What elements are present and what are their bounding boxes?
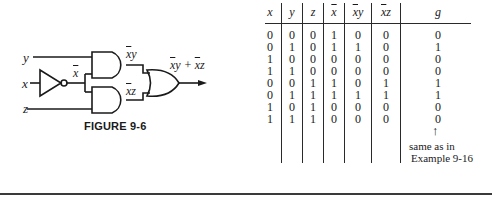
table-cell: 0 xyxy=(348,113,368,125)
table-cell: 1 xyxy=(260,113,280,125)
label-input-z: z xyxy=(23,101,28,117)
note-line-2: Example 9-16 xyxy=(411,152,473,164)
header-divider xyxy=(265,23,471,24)
column-divider xyxy=(371,3,372,163)
up-arrow-icon: ↑ xyxy=(432,125,439,137)
and-gate-bottom xyxy=(92,87,121,113)
header-not-x-y: xy xyxy=(347,6,369,18)
label-not-x: x xyxy=(73,66,78,81)
note-line-1: same as in xyxy=(409,140,455,152)
column-divider xyxy=(400,3,401,163)
figure-caption: FIGURE 9-6 xyxy=(84,120,147,132)
table-cell: 1 xyxy=(303,113,323,125)
header-z: z xyxy=(303,6,323,18)
header-not-x: x xyxy=(324,6,344,18)
label-input-y: y xyxy=(23,50,29,66)
table-cell: 1 xyxy=(282,113,302,125)
output-arrow-icon xyxy=(198,80,207,86)
page-bottom-rule xyxy=(0,193,492,195)
header-y: y xyxy=(282,6,302,18)
not-gate xyxy=(40,70,61,96)
column-divider xyxy=(344,3,345,163)
header-not-x-z: xz xyxy=(375,6,397,18)
and-gate-top xyxy=(92,52,121,78)
header-g: g xyxy=(428,6,448,18)
header-x: x xyxy=(260,6,280,18)
label-output-expression: xy + xz xyxy=(170,58,205,73)
label-input-x: x xyxy=(22,76,28,92)
table-cell: 0 xyxy=(376,113,396,125)
label-xbar-y: xy xyxy=(126,47,137,62)
or-gate xyxy=(147,70,179,96)
label-xbar-z: xz xyxy=(126,84,136,99)
table-cell: 0 xyxy=(324,113,344,125)
